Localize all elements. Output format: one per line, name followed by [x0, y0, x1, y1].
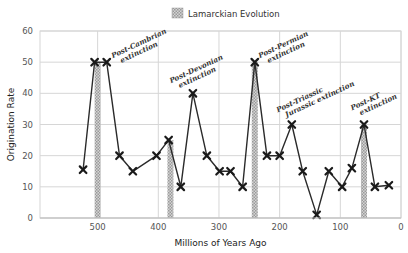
lamarckian-bar: [167, 140, 173, 218]
annotation-label: Post-Cambrianextinction: [109, 27, 171, 68]
y-tick-label: 40: [22, 88, 33, 98]
y-tick-label: 10: [22, 182, 33, 192]
x-tick-label: 0: [398, 222, 403, 232]
x-marker-icon: [130, 168, 137, 175]
x-tick-label: 200: [272, 222, 288, 232]
x-tick-label: 400: [150, 222, 166, 232]
origination-rate-chart: Lamarckian Evolution Post-Cambrianextinc…: [0, 0, 408, 253]
y-axis-title: Origination Rate: [6, 87, 16, 161]
legend-swatch-icon: [172, 8, 183, 18]
y-tick-label: 50: [22, 57, 33, 67]
y-tick-label: 60: [22, 26, 33, 36]
lamarckian-bar: [95, 62, 101, 218]
y-tick-label: 0: [28, 213, 33, 223]
annotation-label: Post-KTextinction: [348, 84, 398, 120]
lamarckian-bars: [95, 62, 367, 218]
x-axis-title: Millions of Years Ago: [174, 238, 267, 248]
y-tick-label: 20: [22, 151, 33, 161]
legend: Lamarckian Evolution: [172, 8, 280, 19]
annotation-label: Post-TriassicJurassic extinction: [274, 72, 356, 122]
legend-label: Lamarckian Evolution: [188, 9, 280, 19]
x-tick-label: 100: [332, 222, 348, 232]
y-tick-label: 30: [22, 120, 33, 130]
x-tick-label: 300: [211, 222, 227, 232]
x-tick-label: 500: [90, 222, 106, 232]
